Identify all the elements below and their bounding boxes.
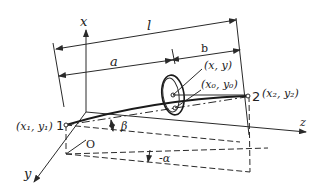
alpha-label: -α	[159, 152, 171, 165]
section-point-label: (x, y)	[204, 59, 232, 72]
center-point-label: (x₀, y₀)	[201, 78, 238, 91]
x-axis: x	[80, 14, 88, 112]
beta-label: β	[120, 120, 127, 133]
floor-projection-line	[66, 154, 250, 172]
point-1: 1 (x₁, y₁)	[16, 118, 68, 133]
left-extension-line	[53, 43, 64, 107]
point-1-coords: (x₁, y₁)	[16, 120, 53, 133]
chord-line	[66, 97, 246, 125]
point-2-coords: (x₂, y₂)	[262, 87, 299, 100]
dimension-a-label: a	[110, 54, 118, 69]
floor-baseline	[66, 140, 86, 154]
x-axis-label: x	[80, 14, 88, 29]
point-2-number: 2	[252, 89, 260, 104]
middle-extension-line	[172, 49, 175, 64]
dimension-b-label: b	[201, 42, 208, 55]
y-axis-label: y	[23, 166, 32, 181]
z-axis-label: z	[299, 116, 306, 129]
beam-geometry-diagram: x z y O l a b β	[0, 0, 321, 194]
origin-label: O	[86, 138, 95, 151]
dimension-l-label: l	[147, 18, 151, 33]
z-axis: z	[86, 112, 306, 132]
beta-angle: β	[111, 120, 127, 133]
right-extension-line	[236, 18, 249, 135]
point-1-number: 1	[56, 118, 64, 133]
p2-drop-line	[249, 96, 250, 172]
cross-section	[159, 69, 248, 116]
point-2: 2 (x₂, y₂)	[246, 87, 299, 104]
dimension-b: b	[172, 42, 240, 60]
dimension-a: a	[59, 54, 172, 76]
